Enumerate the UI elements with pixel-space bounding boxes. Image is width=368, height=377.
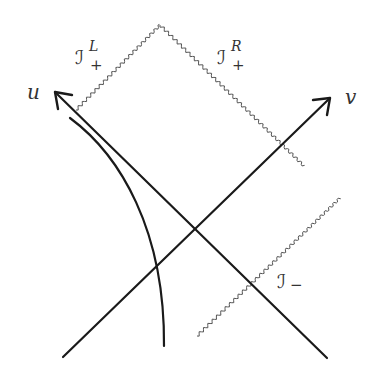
scri-plus-right-label: ℐ R + [217, 48, 226, 67]
scri-subscript: + [232, 58, 245, 73]
v-axis-label: v [345, 85, 356, 109]
scri-minus-label: ℐ − [277, 272, 286, 291]
scri-subscript: + [90, 58, 103, 73]
scri-symbol: ℐ [277, 270, 286, 292]
scri-superscript: R [231, 39, 242, 53]
scri-plus-left-label: ℐ L + [75, 48, 84, 67]
penrose-diagram [0, 0, 368, 377]
scri-symbol: ℐ [75, 46, 84, 68]
v-axis-line [63, 98, 330, 357]
scri-superscript: L [89, 39, 98, 53]
scri-subscript: − [290, 278, 303, 293]
u-axis-label: u [27, 80, 40, 104]
scri-minus-boundary [197, 198, 341, 336]
scri-symbol: ℐ [217, 46, 226, 68]
u-axis-line [55, 92, 327, 358]
